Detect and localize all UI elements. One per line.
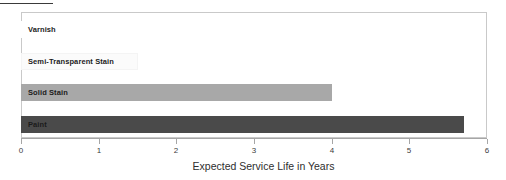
x-axis-tick-label-3: 3: [244, 146, 264, 155]
bar-label-paint: Paint: [22, 120, 47, 129]
x-axis-tick-2: [176, 139, 177, 144]
x-axis-title: Expected Service Life in Years: [0, 160, 506, 172]
x-axis-tick-label-6: 6: [477, 146, 497, 155]
chart-screenshot: Varnish Semi-Transparent Stain Solid Sta…: [0, 0, 506, 180]
bar-label-semi-transparent-stain: Semi-Transparent Stain: [22, 57, 114, 66]
bar-semi-transparent-stain[interactable]: Semi-Transparent Stain: [21, 53, 138, 70]
bar-solid-stain[interactable]: Solid Stain: [21, 84, 332, 101]
bar-label-solid-stain: Solid Stain: [22, 88, 68, 97]
x-axis-tick-3: [254, 139, 255, 144]
x-axis-tick-label-4: 4: [322, 146, 342, 155]
x-axis-tick-5: [409, 139, 410, 144]
bar-varnish[interactable]: Varnish: [21, 21, 91, 38]
x-axis-tick-0: [21, 139, 22, 144]
x-axis-tick-label-1: 1: [89, 146, 109, 155]
x-axis-tick-label-0: 0: [11, 146, 31, 155]
bars-layer: Varnish Semi-Transparent Stain Solid Sta…: [21, 12, 487, 138]
x-axis-tick-6: [487, 139, 488, 144]
x-axis-tick-label-2: 2: [166, 146, 186, 155]
x-axis-tick-label-5: 5: [399, 146, 419, 155]
bar-paint[interactable]: Paint: [21, 116, 464, 133]
x-axis-tick-1: [99, 139, 100, 144]
bar-label-varnish: Varnish: [22, 25, 56, 34]
x-axis-tick-4: [332, 139, 333, 144]
decorative-top-rule: [0, 3, 53, 4]
